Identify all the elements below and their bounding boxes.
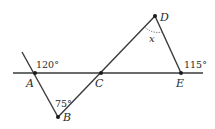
angle-label-A: 120° [36, 59, 59, 70]
label-D: D [159, 11, 169, 24]
segment-DE [155, 16, 181, 73]
label-B: B [62, 111, 71, 124]
segment-BD [58, 16, 155, 117]
angle-label-B: 75° [55, 98, 72, 109]
point-B [56, 115, 60, 119]
angle-label-D: x [149, 33, 155, 44]
point-E [179, 71, 183, 75]
point-A [33, 71, 37, 75]
label-A: A [25, 77, 34, 90]
point-C [99, 71, 103, 75]
label-E: E [175, 77, 184, 90]
label-C: C [95, 77, 104, 90]
angle-label-E: 115° [184, 59, 207, 70]
geometry-diagram: A B C D E 120° 75° x 115° [0, 0, 215, 129]
point-D [153, 14, 157, 18]
